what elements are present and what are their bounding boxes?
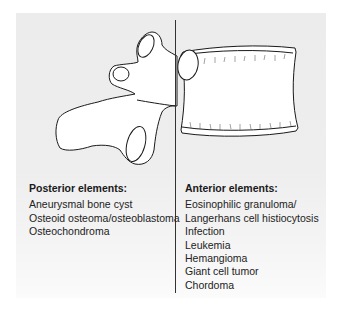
list-item: Osteochondroma	[29, 225, 180, 238]
list-item: Osteoid osteoma/osteoblastoma	[29, 212, 180, 225]
list-item: Hemangioma	[185, 252, 319, 265]
posterior-elements-title: Posterior elements:	[29, 182, 180, 195]
anterior-elements-title: Anterior elements:	[185, 182, 319, 195]
transverse-process-tip	[113, 67, 129, 81]
list-item: Eosinophilic granuloma/	[185, 198, 319, 211]
anterior-posterior-divider-line	[175, 20, 176, 293]
vertebra-illustration	[0, 0, 342, 170]
list-item: Infection	[185, 225, 319, 238]
posterior-elements	[56, 32, 177, 164]
vertebral-body	[181, 46, 298, 136]
list-item: Leukemia	[185, 239, 319, 252]
posterior-elements-list: Posterior elements: Aneurysmal bone cyst…	[29, 182, 180, 239]
list-item: Giant cell tumor	[185, 265, 319, 278]
list-item: Aneurysmal bone cyst	[29, 198, 180, 211]
anterior-elements-list: Anterior elements: Eosinophilic granulom…	[185, 182, 319, 292]
list-item: Chordoma	[185, 279, 319, 292]
list-item: Langerhans cell histiocytosis	[185, 212, 319, 225]
